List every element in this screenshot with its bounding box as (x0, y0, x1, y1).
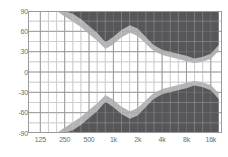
frequency-masking-chart: 9060300-30-60-90 1252505001k2k4k8k16k (0, 0, 228, 157)
y-axis-tick-label: 0 (4, 69, 28, 76)
y-axis-tick-label: 30 (4, 48, 28, 55)
y-axis-tick-label: -30 (4, 89, 28, 96)
plot-canvas (28, 11, 222, 133)
y-axis-tick-label: -60 (4, 109, 28, 116)
y-axis-tick-label: 90 (4, 8, 28, 15)
x-axis-tick-label: 16k (196, 136, 226, 143)
y-axis-tick-label: 60 (4, 28, 28, 35)
plot-area (28, 11, 222, 133)
